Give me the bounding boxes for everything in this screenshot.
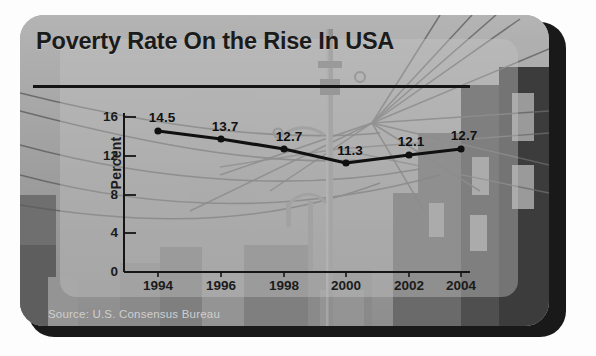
y-tick-label: 0 [92,264,118,279]
y-tick-label: 4 [92,225,118,240]
chart-plot [0,0,596,356]
x-tick-label: 2000 [320,278,372,293]
data-point-label: 12.1 [391,134,431,149]
screenshot-root: Poverty Rate On the Rise In USA Percent … [0,0,596,356]
data-point-label: 14.5 [142,110,182,125]
data-point-label: 12.7 [269,129,309,144]
y-tick-label: 16 [92,109,118,124]
y-tick-label: 8 [92,187,118,202]
data-point-label: 12.7 [444,128,484,143]
x-tick-label: 1998 [258,278,310,293]
y-tick-label: 12 [92,148,118,163]
x-tick-label: 1996 [195,278,247,293]
x-tick-label: 1994 [132,278,184,293]
source-caption: Source: U.S. Consensus Bureau [48,308,220,320]
x-tick-label: 2004 [435,278,487,293]
data-point-label: 13.7 [205,119,245,134]
x-tick-label: 2002 [383,278,435,293]
data-point-label: 11.3 [330,143,370,158]
